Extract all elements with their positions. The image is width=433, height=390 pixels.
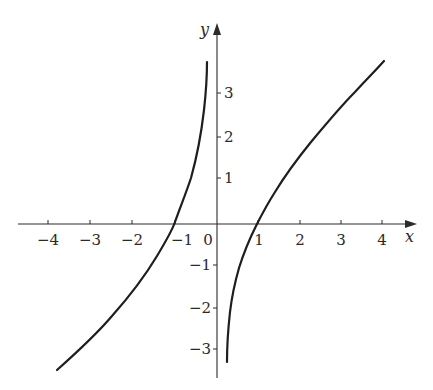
x-tick-label: −2 — [121, 231, 143, 249]
y-tick-label: −2 — [189, 299, 211, 317]
x-tick-labels: −4 −3 −2 −1 0 1 2 3 4 — [37, 231, 387, 249]
function-graph: −4 −3 −2 −1 0 1 2 3 4 3 2 1 −1 −2 −3 x y — [0, 0, 433, 390]
x-ticks — [48, 220, 382, 224]
y-tick-label: −3 — [189, 340, 211, 358]
y-axis-arrow-icon — [213, 23, 221, 35]
left-branch-curve — [57, 62, 207, 370]
x-tick-label: −1 — [171, 231, 193, 249]
x-tick-label: −3 — [79, 231, 101, 249]
x-tick-label: 4 — [377, 231, 387, 249]
y-tick-label: −1 — [189, 256, 211, 274]
right-branch-curve — [227, 61, 384, 362]
x-axis-label: x — [405, 227, 414, 246]
y-axis-label: y — [199, 20, 210, 39]
y-tick-labels: 3 2 1 −1 −2 −3 — [189, 84, 234, 358]
x-tick-label: 3 — [336, 231, 346, 249]
y-tick-label: 2 — [224, 128, 234, 146]
x-tick-label: −4 — [37, 231, 59, 249]
x-tick-label: 1 — [254, 231, 264, 249]
origin-label: 0 — [203, 231, 213, 249]
y-tick-label: 3 — [224, 84, 234, 102]
y-tick-label: 1 — [224, 169, 234, 187]
x-tick-label: 2 — [295, 231, 305, 249]
